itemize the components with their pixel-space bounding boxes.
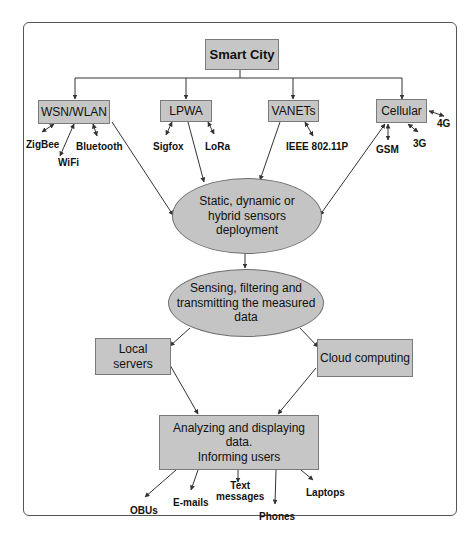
tech-ieee-802-11p: IEEE 802.11P xyxy=(286,141,348,152)
output-node: Analyzing and displaying data. Informing… xyxy=(159,415,319,470)
endpoint-text-messages: Text messages xyxy=(216,481,264,502)
local-servers-line-2: servers xyxy=(113,357,152,371)
smart-city-node: Smart City xyxy=(205,39,279,70)
tech-lora: LoRa xyxy=(205,141,230,152)
deployment-line-3: deployment xyxy=(216,223,278,237)
lpwa-node: LPWA xyxy=(160,100,212,122)
endpoint-text-messages-line-1: Text xyxy=(216,481,264,492)
endpoint-laptops: Laptops xyxy=(306,487,345,498)
endpoint-text-messages-line-2: messages xyxy=(216,492,264,503)
output-line-1: Analyzing and displaying data. xyxy=(160,421,318,450)
sensing-line-1: Sensing, filtering and xyxy=(190,281,302,295)
tech-zigbee: ZigBee xyxy=(26,139,59,150)
local-servers-line-1: Local xyxy=(119,342,148,356)
tech-wifi: WiFi xyxy=(58,157,79,168)
cloud-computing-node: Cloud computing xyxy=(317,339,413,377)
cellular-node: Cellular xyxy=(376,99,427,123)
deployment-node: Static, dynamic or hybrid sensors deploy… xyxy=(172,178,322,254)
endpoint-phones: Phones xyxy=(259,511,295,522)
tech-bluetooth: Bluetooth xyxy=(76,141,123,152)
local-servers-node: Local servers xyxy=(95,338,171,375)
sensing-node: Sensing, filtering and transmitting the … xyxy=(168,269,324,337)
deployment-line-2: hybrid sensors xyxy=(208,209,286,223)
endpoint-emails: E-mails xyxy=(173,497,209,508)
deployment-line-1: Static, dynamic or xyxy=(199,194,294,208)
endpoint-obus: OBUs xyxy=(130,505,158,516)
tech-3g: 3G xyxy=(413,138,426,149)
sensing-line-2: transmitting the measured xyxy=(177,296,316,310)
tech-sigfox: Sigfox xyxy=(153,141,184,152)
sensing-line-3: data xyxy=(234,310,257,324)
wsn-wlan-node: WSN/WLAN xyxy=(38,100,110,124)
vanets-node: VANETs xyxy=(268,100,319,122)
tech-4g: 4G xyxy=(437,118,450,129)
tech-gsm: GSM xyxy=(376,144,399,155)
output-line-2: Informing users xyxy=(198,450,281,464)
